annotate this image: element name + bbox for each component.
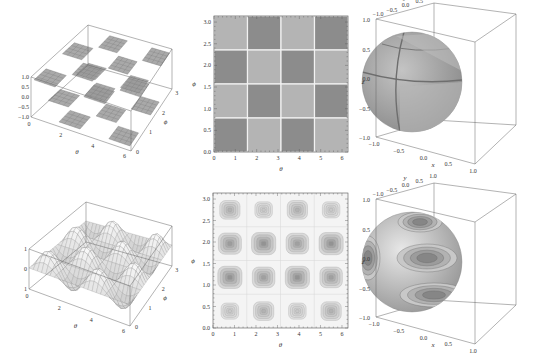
tick-label: y <box>402 174 407 182</box>
tick-label: θ <box>279 341 283 349</box>
tick-label: 3 <box>175 90 178 96</box>
figure: 01234560.00.51.01.52.02.53.0θϕ01234560.0… <box>0 0 533 362</box>
sphere-plot-checkerboard: 1.00.50.0−0.5−1.0−1.0−0.50.00.51.0−1.0−0… <box>359 0 516 174</box>
tick-label: 1 <box>24 246 27 252</box>
tick-label: 1.0 <box>363 197 371 203</box>
tick-label: 1.0 <box>363 17 371 23</box>
tick-label: 4 <box>90 317 93 323</box>
tick-label: 0.0 <box>402 2 410 8</box>
tick-label: x <box>430 161 435 169</box>
tick-label: 1 <box>233 331 236 337</box>
tick-label: 0.5 <box>416 178 424 184</box>
tick-label: 2 <box>162 286 165 292</box>
density-plot-checkerboard: 01234560.00.51.01.52.02.53.0θϕ <box>192 16 348 173</box>
tick-label: 0.5 <box>363 47 371 53</box>
tick-label: 1.0 <box>469 348 477 354</box>
tick-label: −1.0 <box>373 191 384 197</box>
tick-label: 1.5 <box>203 261 211 267</box>
tick-label: 1 <box>234 155 237 161</box>
tick-label: θ <box>75 148 79 156</box>
tick-label: 3 <box>175 267 178 273</box>
tick-label: 0 <box>28 121 31 127</box>
tick-label: 0.5 <box>416 0 424 4</box>
tick-label: θ <box>279 165 283 173</box>
tick-label: 2.5 <box>204 41 212 47</box>
tick-label: −0.5 <box>18 104 29 110</box>
tick-label: −0.5 <box>386 187 397 193</box>
tick-label: 6 <box>340 331 343 337</box>
tick-label: 0.5 <box>204 127 212 133</box>
tick-label: 0 <box>213 155 216 161</box>
tick-label: 2 <box>255 155 258 161</box>
tick-label: 0.0 <box>420 335 428 341</box>
tick-label: 0.0 <box>420 155 428 161</box>
tick-label: −0.5 <box>359 106 370 112</box>
tick-label: 4 <box>298 155 301 161</box>
tick-label: 0.0 <box>204 149 212 155</box>
tick-label: z <box>361 78 365 86</box>
tick-label: z <box>361 258 365 266</box>
tick-label: 0.0 <box>22 94 30 100</box>
tick-label: 2.0 <box>203 239 211 245</box>
tick-label: 3 <box>276 331 279 337</box>
tick-label: ϕ <box>164 118 168 126</box>
tick-label: 2 <box>254 331 257 337</box>
surface-plot-smooth: 02460123θϕ101 <box>24 202 178 334</box>
tick-label: ϕ <box>191 257 195 265</box>
tick-label: 5 <box>319 155 322 161</box>
tick-label: −1.0 <box>373 11 384 17</box>
tick-label: −0.5 <box>393 328 404 334</box>
tick-label: ϕ <box>163 294 167 302</box>
tick-label: ϕ <box>192 80 196 88</box>
tick-label: 2 <box>162 110 165 116</box>
tick-label: 0.0 <box>203 325 211 331</box>
tick-label: 1.0 <box>429 173 437 179</box>
sphere-plot-contour: 1.00.50.0−0.5−1.0−1.0−0.50.00.51.0−1.0−0… <box>356 173 516 354</box>
tick-label: 3 <box>277 155 280 161</box>
tick-label: 0.5 <box>203 304 211 310</box>
tick-label: θ <box>74 322 78 330</box>
tick-label: 1.0 <box>22 74 30 80</box>
tick-label: 0.5 <box>445 161 453 167</box>
tick-label: 4 <box>297 331 300 337</box>
tick-label: 1.0 <box>204 106 212 112</box>
tick-label: 2.0 <box>204 62 212 68</box>
tick-label: 5 <box>319 331 322 337</box>
tick-label: 1 <box>24 286 27 292</box>
tick-label: −0.5 <box>386 7 397 13</box>
tick-label: 1.0 <box>203 282 211 288</box>
tick-label: 0 <box>26 293 29 299</box>
tick-label: −1.0 <box>369 141 380 147</box>
tick-label: 0.5 <box>22 84 30 90</box>
tick-label: −1.0 <box>369 321 380 327</box>
tick-label: 0.5 <box>445 341 453 347</box>
tick-label: 6 <box>123 153 126 159</box>
tick-label: 3.0 <box>203 196 211 202</box>
tick-label: x <box>430 341 435 349</box>
tick-label: 6 <box>122 328 125 334</box>
tick-label: 0 <box>136 149 139 155</box>
tick-label: 0 <box>135 324 138 330</box>
contour-plot: 01234560.00.51.01.52.02.53.0θϕ <box>191 193 348 349</box>
tick-label: −0.5 <box>393 148 404 154</box>
tick-label: 0 <box>24 266 27 272</box>
tick-label: 1.0 <box>469 168 477 174</box>
tick-label: 3.0 <box>204 19 212 25</box>
tick-label: −1.0 <box>18 114 29 120</box>
tick-label: 0.5 <box>363 227 371 233</box>
surface-plot-checkerboard: 02460123θϕ1.00.50.0−0.5−1.0 <box>18 25 178 159</box>
tick-label: 1 <box>148 305 151 311</box>
tick-label: 0.0 <box>402 182 410 188</box>
tick-label: −0.5 <box>359 286 370 292</box>
tick-label: 2 <box>59 132 62 138</box>
tick-label: 2 <box>58 305 61 311</box>
tick-label: 1.5 <box>204 84 212 90</box>
tick-label: 1 <box>149 129 152 135</box>
tick-label: 4 <box>91 143 94 149</box>
tick-label: 0 <box>212 331 215 337</box>
tick-label: 6 <box>341 155 344 161</box>
tick-label: 2.5 <box>203 218 211 224</box>
